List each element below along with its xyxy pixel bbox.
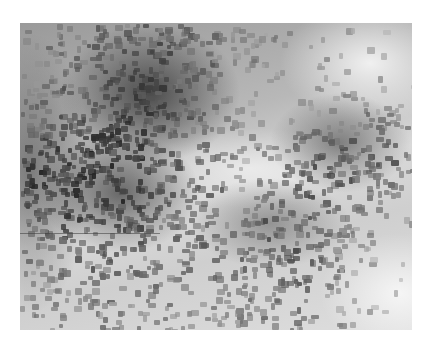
micrograph-image — [20, 23, 412, 330]
page-background — [0, 0, 432, 346]
micrograph-speckle-layer — [20, 23, 412, 330]
scanline-artifact — [20, 233, 160, 234]
